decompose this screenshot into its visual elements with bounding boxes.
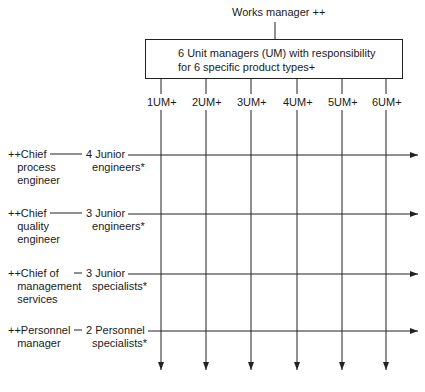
staff-label: 2 Personnel specialists*	[86, 324, 147, 350]
staff-label: 3 Junior engineers*	[86, 207, 145, 233]
unit-label: 4UM+	[283, 96, 313, 109]
unit-managers-box: 6 Unit managers (UM) with responsibility…	[145, 39, 403, 79]
works-manager-label: Works manager ++	[232, 6, 325, 19]
staff-label: 4 Junior engineers*	[86, 148, 145, 174]
staff-label: 3 Junior specialists*	[86, 267, 147, 293]
unit-label: 5UM+	[328, 96, 358, 109]
chief-label: ++Personnel manager	[8, 324, 70, 350]
unit-managers-line1: 6 Unit managers (UM) with responsibility	[178, 47, 375, 59]
unit-label: 3UM+	[237, 96, 267, 109]
unit-label: 1UM+	[147, 96, 177, 109]
unit-label: 2UM+	[192, 96, 222, 109]
chief-label: ++Chief quality engineer	[8, 207, 60, 246]
unit-label: 6UM+	[372, 96, 402, 109]
chief-label: ++Chief process engineer	[8, 148, 60, 187]
chief-label: ++Chief of management services	[8, 267, 81, 306]
unit-managers-line2: for 6 specific product types+	[178, 61, 315, 73]
unit-managers-text: 6 Unit managers (UM) with responsibility…	[178, 46, 375, 74]
